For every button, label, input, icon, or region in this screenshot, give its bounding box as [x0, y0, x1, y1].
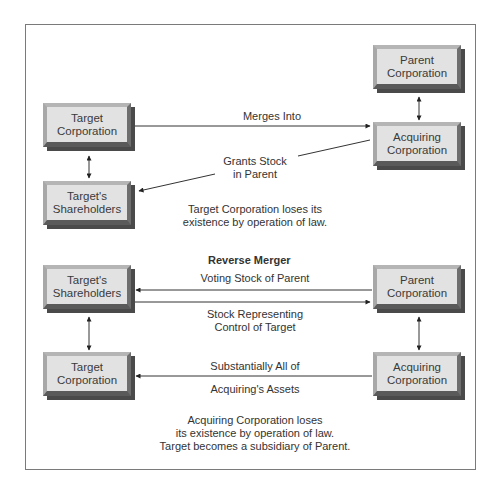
voting-stock-label: Voting Stock of Parent [185, 272, 325, 285]
top-acquiring-corporation-box: Acquiring Corporation [373, 122, 461, 166]
top-targets-shareholders-box: Target's Shareholders [43, 181, 131, 225]
top-target-corporation-box: Target Corporation [43, 103, 131, 147]
bottom-targets-shareholders-box: Target's Shareholders [43, 265, 131, 309]
grants-stock-label-line2: in Parent [205, 168, 305, 181]
stock-representing-label-line1: Stock Representing [185, 308, 325, 321]
box-label: Target's Shareholders [47, 190, 127, 216]
top-parent-corporation-box: Parent Corporation [373, 45, 461, 89]
box-label: Parent Corporation [377, 274, 457, 300]
top-note-line2: existence by operation of law. [165, 216, 345, 229]
bottom-note-line1: Acquiring Corporation loses [150, 414, 360, 427]
bottom-note-line3: Target becomes a subsidiary of Parent. [150, 440, 360, 453]
assets-label-line2: Acquiring's Assets [185, 383, 325, 396]
stock-representing-label-line2: Control of Target [185, 321, 325, 334]
box-label: Target Corporation [47, 112, 127, 138]
box-label: Acquiring Corporation [377, 131, 457, 157]
diagram-frame [25, 24, 476, 470]
box-label: Target's Shareholders [47, 274, 127, 300]
bottom-note-line2: its existence by operation of law. [150, 427, 360, 440]
merges-into-label: Merges Into [222, 110, 322, 123]
box-label: Acquiring Corporation [377, 361, 457, 387]
assets-label-line1: Substantially All of [185, 360, 325, 373]
bottom-parent-corporation-box: Parent Corporation [373, 265, 461, 309]
grants-stock-label-line1: Grants Stock [205, 155, 305, 168]
box-label: Parent Corporation [377, 54, 457, 80]
bottom-acquiring-corporation-box: Acquiring Corporation [373, 352, 461, 396]
box-label: Target Corporation [47, 361, 127, 387]
top-note-line1: Target Corporation loses its [165, 203, 345, 216]
reverse-merger-title: Reverse Merger [208, 254, 291, 266]
bottom-target-corporation-box: Target Corporation [43, 352, 131, 396]
